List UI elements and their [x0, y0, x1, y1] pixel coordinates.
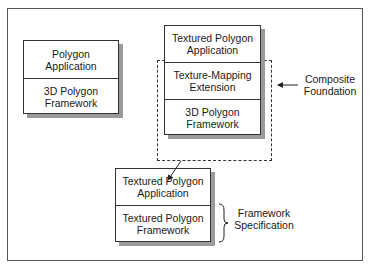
- layer-textured-polygon-framework: Textured Polygon Framework: [116, 205, 210, 242]
- layer-3d-polygon-framework: 3D Polygon Framework: [24, 78, 118, 114]
- top-stack: Textured Polygon Application Texture-Map…: [164, 25, 261, 135]
- left-stack: Polygon Application 3D Polygon Framework: [23, 40, 119, 114]
- composite-foundation-label: Composite Foundation: [298, 73, 362, 97]
- layer-3d-polygon-framework: 3D Polygon Framework: [165, 99, 260, 135]
- layer-polygon-application: Polygon Application: [24, 41, 118, 78]
- layer-texture-mapping-extension: Texture-Mapping Extension: [165, 62, 260, 99]
- bottom-stack: Textured Polygon Application Textured Po…: [115, 168, 211, 242]
- layer-textured-polygon-application: Textured Polygon Application: [116, 169, 210, 205]
- framework-specification-label: Framework Specification: [228, 207, 300, 231]
- layer-textured-polygon-application: Textured Polygon Application: [165, 26, 260, 62]
